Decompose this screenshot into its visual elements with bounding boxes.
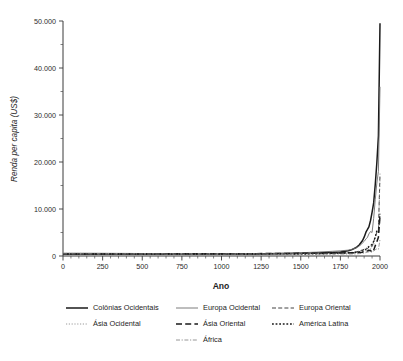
income-per-capita-line-chart: 010.00020.00030.00040.00050.000 02505007… [0, 0, 403, 361]
y-tick-label: 10.000 [34, 205, 56, 214]
y-tick-label: 0 [52, 252, 56, 261]
legend-label: Europa Ocidental [203, 303, 260, 312]
legend-label: África [203, 335, 223, 344]
x-tick-label: 2000 [372, 262, 388, 271]
legend-label: Europa Oriental [299, 303, 351, 312]
x-tick-label: 0 [61, 262, 65, 271]
x-tick-label: 1500 [293, 262, 309, 271]
y-tick-label: 30.000 [34, 111, 56, 120]
x-axis-title: Ano [213, 281, 230, 291]
x-tick-label: 250 [97, 262, 109, 271]
chart-figure: 010.00020.00030.00040.00050.000 02505007… [0, 0, 403, 361]
x-tick-label: 750 [176, 262, 188, 271]
x-tick-label: 1000 [214, 262, 230, 271]
x-tick-label: 500 [136, 262, 148, 271]
legend-label: Ásia Ocidental [93, 319, 141, 328]
x-tick-label: 1250 [253, 262, 269, 271]
x-tick-label: 1750 [332, 262, 348, 271]
legend-label: Ásia Oriental [203, 319, 246, 328]
y-tick-label: 20.000 [34, 158, 56, 167]
legend-label: América Latina [299, 319, 349, 328]
y-tick-label: 40.000 [34, 64, 56, 73]
y-tick-label: 50.000 [34, 17, 56, 26]
legend-label: Colônias Ocidentais [93, 303, 159, 312]
y-axis-title: Renda per capita (US$) [10, 96, 19, 182]
